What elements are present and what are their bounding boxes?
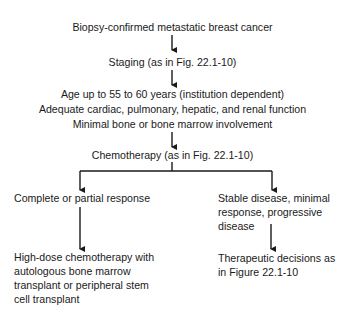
node-criteria-organ-function: Adequate cardiac, pulmonary, hepatic, an… — [0, 102, 345, 117]
node-complete-partial-response: Complete or partial response — [14, 191, 150, 206]
node-criteria-age: Age up to 55 to 60 years (institution de… — [0, 87, 345, 102]
node-chemotherapy: Chemotherapy (as in Fig. 22.1-10) — [0, 148, 345, 163]
node-start: Biopsy-confirmed metastatic breast cance… — [0, 20, 345, 35]
node-criteria-bone-marrow: Minimal bone or bone marrow involvement — [0, 117, 345, 132]
node-staging: Staging (as in Fig. 22.1-10) — [0, 55, 345, 70]
